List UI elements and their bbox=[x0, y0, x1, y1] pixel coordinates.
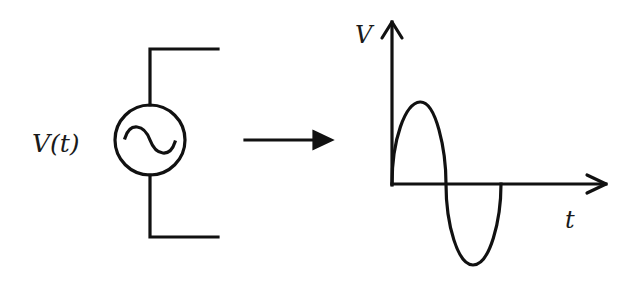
sine-wave-icon bbox=[125, 127, 175, 153]
bottom-wire bbox=[150, 175, 218, 237]
ac-voltage-source bbox=[115, 49, 218, 237]
ac-source-to-waveform-diagram: V(t) V t bbox=[0, 0, 634, 298]
arrow-head-icon bbox=[314, 132, 331, 148]
x-axis-label: t bbox=[565, 206, 575, 234]
graph-axes bbox=[382, 22, 606, 193]
y-axis-label: V bbox=[355, 21, 375, 49]
diagram-svg: V(t) V t bbox=[0, 0, 634, 298]
source-label: V(t) bbox=[32, 129, 80, 158]
transition-arrow bbox=[245, 132, 331, 148]
top-wire bbox=[150, 49, 218, 105]
